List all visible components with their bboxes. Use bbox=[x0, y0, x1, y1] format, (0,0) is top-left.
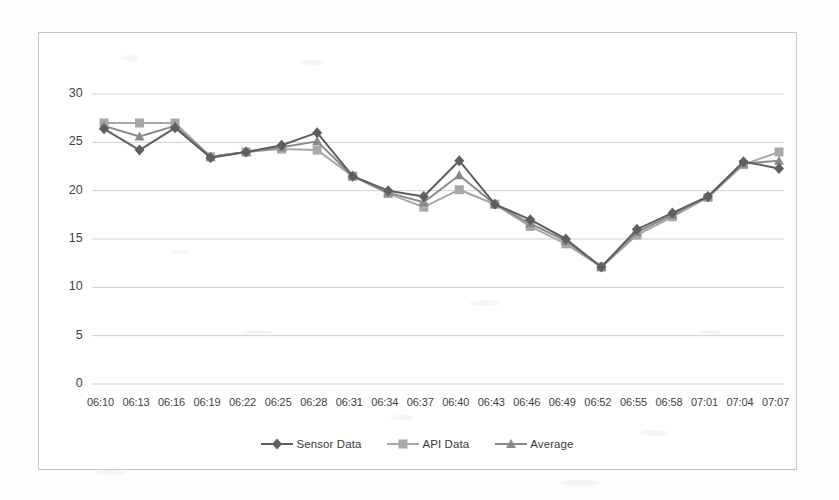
data-point-marker bbox=[135, 145, 145, 156]
x-axis-tick-label: 06:37 bbox=[407, 396, 434, 408]
x-axis-tick-label: 06:28 bbox=[300, 396, 327, 408]
x-axis-tick-label: 06:31 bbox=[336, 396, 363, 408]
scan-artifact bbox=[640, 430, 668, 436]
scan-artifact bbox=[700, 330, 722, 335]
scan-artifact bbox=[390, 415, 414, 420]
chart-container: 051015202530 06:1006:1306:1606:1906:2206… bbox=[0, 0, 839, 500]
legend-label: Sensor Data bbox=[296, 438, 361, 450]
x-axis-tick-label: 06:16 bbox=[158, 396, 185, 408]
x-axis-tick-label: 07:01 bbox=[691, 396, 718, 408]
series-api-data bbox=[100, 119, 784, 272]
x-axis-tick-label: 06:13 bbox=[123, 396, 150, 408]
chart-legend: Sensor DataAPI DataAverage bbox=[39, 437, 796, 451]
data-point-marker bbox=[135, 119, 144, 128]
scan-artifact bbox=[95, 470, 125, 475]
x-axis-tick-label: 07:07 bbox=[762, 396, 789, 408]
scan-artifact bbox=[170, 250, 190, 254]
x-axis-tick-label: 06:55 bbox=[620, 396, 647, 408]
data-point-marker bbox=[455, 185, 464, 194]
scan-artifact bbox=[560, 480, 600, 486]
x-axis-tick-label: 06:40 bbox=[442, 396, 469, 408]
data-point-marker bbox=[775, 148, 784, 157]
diamond-marker-icon bbox=[261, 437, 293, 451]
x-axis-tick-label: 06:22 bbox=[229, 396, 256, 408]
x-axis-tick-label: 06:10 bbox=[87, 396, 114, 408]
legend-label: API Data bbox=[422, 438, 469, 450]
legend-item-sensor-data[interactable]: Sensor Data bbox=[261, 437, 361, 451]
legend-item-api-data[interactable]: API Data bbox=[387, 437, 469, 451]
x-axis-tick-label: 06:46 bbox=[513, 396, 540, 408]
y-axis-tick-label: 25 bbox=[53, 134, 83, 148]
y-axis-tick-label: 20 bbox=[53, 183, 83, 197]
x-axis-tick-label: 06:52 bbox=[584, 396, 611, 408]
x-axis-tick-label: 06:19 bbox=[194, 396, 221, 408]
series-average bbox=[99, 121, 784, 271]
triangle-marker-icon bbox=[495, 437, 527, 451]
legend-label: Average bbox=[530, 438, 573, 450]
chart-plot-frame: 051015202530 06:1006:1306:1606:1906:2206… bbox=[38, 32, 797, 470]
x-axis-tick-label: 07:04 bbox=[726, 396, 753, 408]
x-axis-tick-label: 06:49 bbox=[549, 396, 576, 408]
scan-artifact bbox=[300, 60, 326, 65]
x-axis-tick-label: 06:25 bbox=[265, 396, 292, 408]
y-axis-tick-label: 15 bbox=[53, 231, 83, 245]
square-marker-icon bbox=[387, 437, 419, 451]
x-axis-tick-label: 06:34 bbox=[371, 396, 398, 408]
y-axis-tick-label: 5 bbox=[53, 328, 83, 342]
y-axis-tick-label: 0 bbox=[53, 376, 83, 390]
scan-artifact bbox=[120, 55, 138, 61]
x-axis-tick-label: 06:43 bbox=[478, 396, 505, 408]
data-point-marker bbox=[454, 170, 464, 179]
series-line bbox=[104, 123, 779, 267]
y-axis-tick-label: 10 bbox=[53, 279, 83, 293]
scan-artifact bbox=[240, 330, 274, 335]
legend-item-average[interactable]: Average bbox=[495, 437, 573, 451]
data-point-marker bbox=[313, 146, 322, 155]
scan-artifact bbox=[470, 300, 500, 306]
y-axis-tick-label: 30 bbox=[53, 86, 83, 100]
x-axis-tick-label: 06:58 bbox=[655, 396, 682, 408]
series-line bbox=[104, 126, 779, 267]
